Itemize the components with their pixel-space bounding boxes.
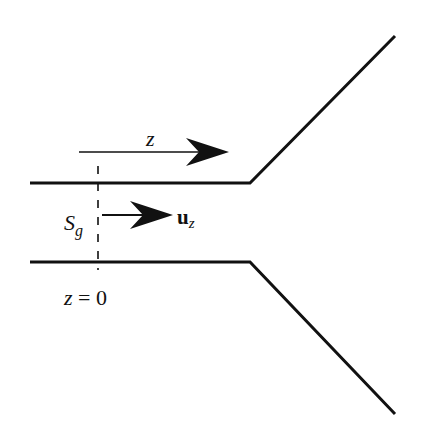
surface-label: Sg [64,210,83,240]
nozzle-diagram: z Sg uz z = 0 [0,0,421,432]
z-axis-label: z [145,126,155,151]
upper-wall [30,36,395,183]
origin-label: z = 0 [63,285,107,310]
unit-vector-label: uz [177,205,195,231]
unit-vector-arrow [102,201,173,229]
diagram-canvas: z Sg uz z = 0 [0,0,421,432]
